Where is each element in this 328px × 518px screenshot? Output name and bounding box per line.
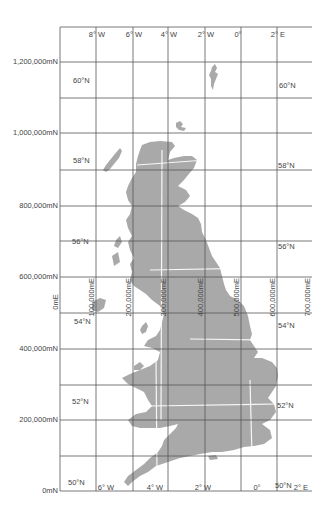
latitude-label: 54°N xyxy=(74,317,91,326)
easting-label: 200,000mE xyxy=(124,278,133,316)
northing-label: 800,000mN xyxy=(19,201,58,210)
latitude-label: 56°N xyxy=(72,237,89,246)
latitude-label: 60°N xyxy=(73,76,90,85)
latitude-label: 52°N xyxy=(72,397,89,406)
longitude-label: 0° xyxy=(234,30,241,39)
inner-hebrides xyxy=(112,236,122,266)
latitude-label: 52°N xyxy=(277,401,294,410)
northing-label: 600,000mN xyxy=(19,272,58,281)
longitude-label: 2° E xyxy=(294,483,308,492)
easting-label: 0mE xyxy=(51,294,60,309)
top-longitude-labels: 8° W 6° W 4° W 2° W 0° 2° E xyxy=(89,30,285,39)
longitude-label: 0° xyxy=(253,483,260,492)
northing-label: 200,000mN xyxy=(19,415,58,424)
landmass xyxy=(92,64,278,486)
shetland-islands xyxy=(209,64,218,90)
right-latitude-labels: 60°N 58°N 56°N 54°N 52°N 50°N xyxy=(275,81,296,490)
latitude-label: 50°N xyxy=(68,478,85,487)
longitude-label: 2° W xyxy=(198,30,215,39)
northing-label: 1,200,000mN xyxy=(13,57,58,66)
longitude-label: 6° W xyxy=(98,483,115,492)
longitude-label: 2° W xyxy=(195,483,212,492)
northing-label: 400,000mN xyxy=(19,344,58,353)
easting-label: 600,000mE xyxy=(268,278,277,316)
northing-labels: 1,200,000mN 1,000,000mN 800,000mN 600,00… xyxy=(13,57,58,495)
easting-label: 700,000mE xyxy=(303,278,312,316)
easting-label: 400,000mE xyxy=(196,278,205,316)
longitude-label: 2° E xyxy=(271,30,285,39)
latitude-label: 56°N xyxy=(278,242,295,251)
easting-label: 500,000mE xyxy=(232,278,241,316)
easting-label: 100,000mE xyxy=(87,278,96,316)
longitude-label: 8° W xyxy=(89,30,106,39)
outer-hebrides xyxy=(103,148,122,172)
latitude-label: 58°N xyxy=(73,156,90,165)
latitude-label: 54°N xyxy=(278,321,295,330)
os-grid-map: 1,200,000mN 1,000,000mN 800,000mN 600,00… xyxy=(0,0,328,518)
longitude-label: 4° W xyxy=(147,483,164,492)
isle-of-man xyxy=(140,322,148,334)
latitude-label: 50°N xyxy=(275,481,292,490)
orkney-islands xyxy=(176,121,186,131)
latitude-label: 58°N xyxy=(278,161,295,170)
latitude-label: 60°N xyxy=(279,81,296,90)
anglesey xyxy=(134,362,144,370)
easting-label: 300,000mE xyxy=(159,278,168,316)
northing-label: 1,000,000mN xyxy=(13,128,58,137)
longitude-label: 6° W xyxy=(126,30,143,39)
northing-label: 0mN xyxy=(42,486,58,495)
longitude-label: 4° W xyxy=(161,30,178,39)
